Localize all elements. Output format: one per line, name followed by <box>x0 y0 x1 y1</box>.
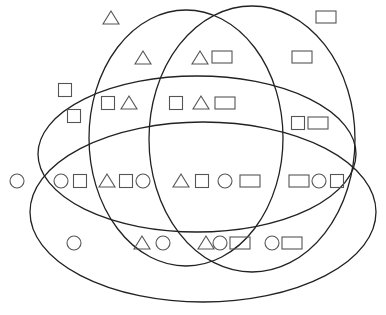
circle-shape <box>265 236 279 250</box>
square-shape <box>59 84 72 97</box>
venn-diagram-svg <box>0 0 386 315</box>
square-shape <box>102 97 115 110</box>
triangle-shape <box>198 236 214 249</box>
square-shape <box>68 110 81 123</box>
ellipse-left-vertical <box>89 10 283 266</box>
triangle-shape <box>193 96 209 109</box>
triangle-shape <box>173 174 189 187</box>
ellipse-lower-horizontal <box>30 122 376 302</box>
triangle-shape <box>192 51 208 64</box>
rectangle-shape <box>282 237 302 249</box>
square-shape <box>196 175 209 188</box>
square-shape <box>170 97 183 110</box>
triangle-shape <box>134 236 150 249</box>
rectangle-shape <box>215 97 235 109</box>
square-shape <box>74 175 87 188</box>
square-shape <box>120 175 133 188</box>
triangle-shape <box>121 96 137 109</box>
element-shapes <box>10 11 344 250</box>
rectangle-shape <box>292 51 312 63</box>
circle-shape <box>54 174 68 188</box>
circle-shape <box>213 236 227 250</box>
rectangle-shape <box>230 237 250 249</box>
set-ellipses <box>30 6 376 302</box>
circle-shape <box>10 174 24 188</box>
circle-shape <box>156 236 170 250</box>
ellipse-upper-horizontal <box>38 76 356 232</box>
venn-diagram <box>0 0 386 315</box>
circle-shape <box>67 236 81 250</box>
rectangle-shape <box>212 51 232 63</box>
triangle-shape <box>103 11 119 24</box>
rectangle-shape <box>316 11 336 23</box>
circle-shape <box>136 174 150 188</box>
triangle-shape <box>135 51 151 64</box>
rectangle-shape <box>289 175 309 187</box>
square-shape <box>292 117 305 130</box>
triangle-shape <box>99 174 115 187</box>
rectangle-shape <box>240 175 260 187</box>
rectangle-shape <box>308 117 328 129</box>
circle-shape <box>218 174 232 188</box>
circle-shape <box>312 174 326 188</box>
